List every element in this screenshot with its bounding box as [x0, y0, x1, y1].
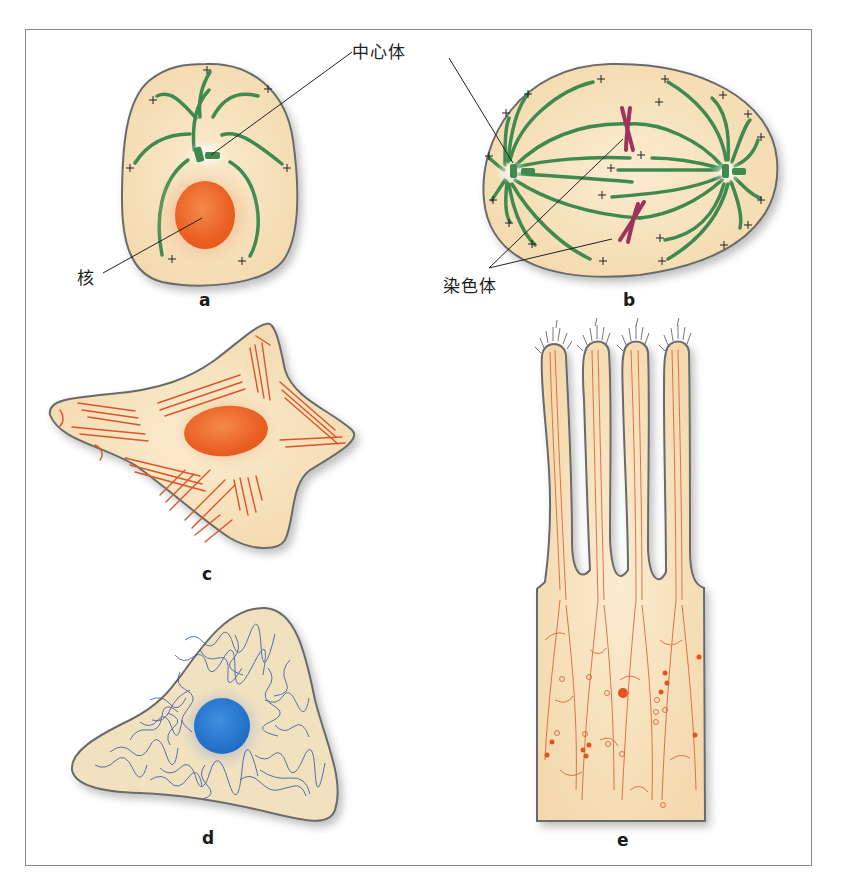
centrosome-callout-line-b: [449, 58, 513, 163]
panel-d-nucleus: [176, 682, 268, 774]
chromosome-label: 染色体: [443, 272, 497, 297]
panel-a-nucleus: [150, 160, 260, 270]
panel-label-c: c: [202, 564, 212, 584]
panel-label-e: e: [617, 830, 629, 850]
panel-label-d: d: [202, 828, 214, 848]
panel-label-a: a: [199, 290, 210, 310]
nucleus-label: 核: [77, 264, 95, 289]
panel-label-b: b: [623, 290, 635, 310]
centrosome-label: 中心体: [352, 38, 406, 63]
figure-artwork: [0, 0, 842, 881]
panel-c-nucleus: [171, 391, 281, 471]
